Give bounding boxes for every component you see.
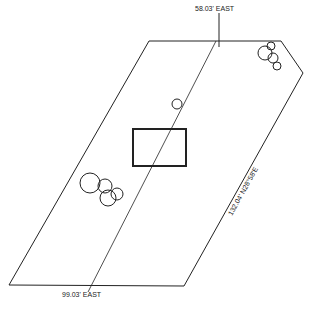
bottom-boundary-label: 99.03' EAST [62, 291, 102, 298]
tree-circle [111, 188, 123, 200]
parcel-boundary [9, 41, 303, 286]
site-plan-diagram: 58.03' EAST 99.03' EAST 132.04' N28°58'E [0, 0, 311, 309]
tree-circle [172, 99, 182, 109]
building-footprint [133, 129, 186, 166]
tree-circle [273, 62, 281, 70]
tree-circle [258, 46, 272, 60]
top-boundary-label: 58.03' EAST [195, 5, 235, 12]
right-boundary-label: 132.04' N28°58'E [227, 165, 260, 216]
tree-circle [80, 173, 100, 193]
